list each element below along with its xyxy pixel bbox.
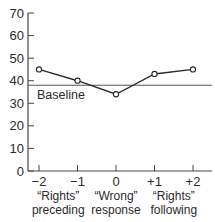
data-point-marker [113, 92, 118, 97]
category-label-line1: “Rights” [37, 189, 79, 203]
line-chart: 010203040506070 −2−10+1+2 Baseline “Righ… [0, 0, 215, 222]
y-tick-label: 50 [10, 51, 24, 66]
y-tick-label: 0 [17, 164, 24, 179]
category-annotations: “Rights”preceding“Wrong”response“Rights”… [32, 189, 197, 217]
data-point-marker [75, 78, 80, 83]
data-point-marker [152, 71, 157, 76]
baseline-reference: Baseline [28, 85, 212, 102]
x-tick-label: 0 [112, 174, 119, 189]
data-point-marker [190, 67, 195, 72]
baseline-label: Baseline [37, 88, 85, 102]
category-label-line2: response [91, 203, 141, 217]
x-tick-label: +1 [147, 174, 162, 189]
y-ticks: 010203040506070 [10, 6, 34, 179]
category-label-line1: “Rights” [153, 189, 195, 203]
data-point-marker [36, 67, 41, 72]
y-tick-label: 70 [10, 6, 24, 21]
category-label-line1: “Wrong” [94, 189, 137, 203]
y-tick-label: 40 [10, 73, 24, 88]
x-ticks: −2−10+1+2 [32, 165, 201, 189]
x-tick-label: −2 [32, 174, 47, 189]
category-label-line2: following [150, 203, 197, 217]
y-tick-label: 30 [10, 96, 24, 111]
y-tick-label: 10 [10, 141, 24, 156]
x-tick-label: +2 [186, 174, 201, 189]
category-label-line2: preceding [32, 203, 85, 217]
y-tick-label: 60 [10, 28, 24, 43]
x-tick-label: −1 [70, 174, 85, 189]
y-tick-label: 20 [10, 118, 24, 133]
